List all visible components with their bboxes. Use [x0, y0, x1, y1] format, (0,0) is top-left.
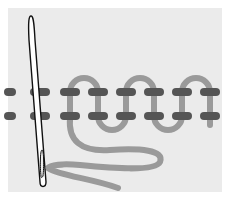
stitch-diagram: [0, 0, 228, 202]
needle-icon: [29, 16, 62, 187]
